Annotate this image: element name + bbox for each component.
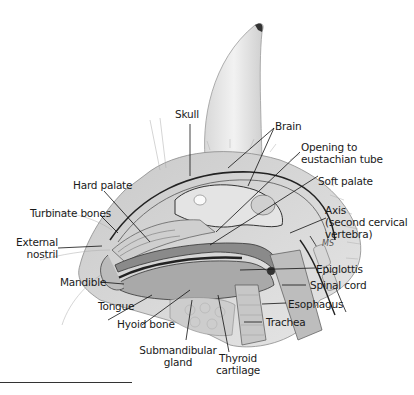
label-esophagus: Esophagus (288, 298, 343, 310)
label-external-nostril-1: External (0, 236, 58, 248)
footnote-divider (0, 382, 132, 383)
label-brain: Brain (275, 120, 302, 132)
submandibular-gland (170, 298, 235, 336)
label-epiglottis: Epiglottis (316, 263, 363, 275)
label-opening-eustachian-2: eustachian tube (301, 153, 383, 165)
label-thyroid-1: Thyroid (208, 352, 268, 364)
label-axis-2: (second cervical (325, 216, 408, 228)
label-turbinate-bones: Turbinate bones (30, 207, 111, 219)
anatomy-illustration: MS (0, 0, 414, 395)
label-hard-palate: Hard palate (73, 179, 132, 191)
label-opening-eustachian-1: Opening to (301, 141, 357, 153)
label-tongue: Tongue (98, 300, 134, 312)
label-axis-1: Axis (325, 204, 346, 216)
label-hyoid-bone: Hyoid bone (117, 318, 175, 330)
label-mandible: Mandible (60, 276, 106, 288)
label-external-nostril-2: nostril (0, 248, 58, 260)
artist-signature: MS (322, 239, 334, 248)
label-soft-palate: Soft palate (318, 175, 373, 187)
ear (205, 24, 264, 172)
label-axis-3: vertebra) (325, 228, 372, 240)
label-skull: Skull (175, 108, 199, 120)
epiglottis-marker (267, 267, 275, 275)
label-trachea: Trachea (266, 316, 306, 328)
label-spinal-cord: Spinal cord (310, 279, 366, 291)
label-thyroid-2: cartilage (208, 364, 268, 376)
